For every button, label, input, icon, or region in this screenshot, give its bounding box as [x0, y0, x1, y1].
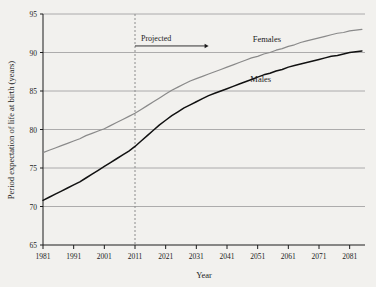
- x-tick-label: 2081: [342, 252, 357, 261]
- x-tick-label: 2011: [128, 252, 143, 261]
- x-tick-label: 1981: [36, 252, 51, 261]
- x-axis-title: Year: [196, 270, 212, 280]
- y-axis-title: Period expectation of life at birth (yea…: [6, 61, 16, 199]
- series-label-males: Males: [250, 74, 271, 84]
- x-tick-label: 2031: [189, 252, 204, 261]
- x-tick-label: 2041: [220, 252, 235, 261]
- chart-canvas: 1981199120012011202120312041205120612071…: [0, 0, 376, 287]
- y-tick-label: 65: [30, 241, 38, 250]
- series-label-females: Females: [253, 34, 281, 44]
- y-tick-label: 80: [30, 126, 38, 135]
- x-tick-label: 2061: [281, 252, 296, 261]
- x-tick-label: 2001: [97, 252, 112, 261]
- x-tick-label: 1991: [66, 252, 81, 261]
- y-tick-label: 85: [30, 87, 38, 96]
- y-tick-label: 75: [30, 164, 38, 173]
- y-tick-label: 70: [30, 203, 38, 212]
- y-tick-label: 95: [30, 10, 38, 19]
- x-tick-label: 2021: [158, 252, 173, 261]
- x-tick-label: 2051: [250, 252, 265, 261]
- projected-label: Projected: [141, 34, 171, 43]
- y-tick-label: 90: [30, 49, 38, 58]
- x-tick-label: 2071: [312, 252, 327, 261]
- life-expectancy-chart: 1981199120012011202120312041205120612071…: [0, 0, 376, 287]
- chart-background: [0, 0, 376, 287]
